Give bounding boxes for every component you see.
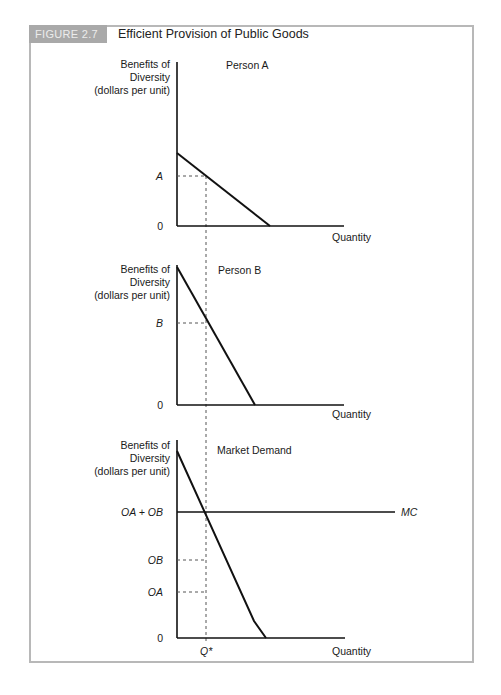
- x-axis-label: Quantity: [332, 408, 372, 420]
- ylabel-line1: Benefits of: [120, 439, 170, 451]
- ylabel-line3: (dollars per unit): [94, 84, 170, 96]
- ylabel-line2: Diversity: [130, 71, 171, 83]
- y-tick-b: B: [156, 317, 163, 329]
- y-tick-oa: OA: [148, 586, 163, 598]
- panel-person-b: Benefits of Diversity (dollars per unit)…: [94, 263, 372, 420]
- ylabel-line2: Diversity: [130, 452, 171, 464]
- origin-label: 0: [157, 399, 163, 411]
- ylabel-line1: Benefits of: [120, 263, 170, 275]
- y-tick-oa-plus-ob: OA + OB: [121, 506, 163, 518]
- origin-label: 0: [157, 632, 163, 644]
- x-axis-label: Quantity: [332, 645, 372, 657]
- chart-canvas: Benefits of Diversity (dollars per unit)…: [0, 0, 501, 695]
- panel-title: Market Demand: [217, 444, 292, 456]
- panel-title: Person B: [218, 264, 261, 276]
- panel-market-demand: Benefits of Diversity (dollars per unit)…: [94, 439, 418, 657]
- market-demand-curve: [177, 451, 266, 638]
- demand-curve-a: [177, 153, 270, 226]
- panel-person-a: Benefits of Diversity (dollars per unit)…: [94, 58, 372, 243]
- panel-title: Person A: [226, 59, 269, 71]
- x-tick-q-star: Q*: [200, 645, 213, 657]
- ylabel-line3: (dollars per unit): [94, 289, 170, 301]
- demand-curve-b: [177, 267, 255, 405]
- y-tick-a: A: [155, 170, 163, 182]
- ylabel-line2: Diversity: [130, 276, 171, 288]
- origin-label: 0: [157, 220, 163, 232]
- mc-label: MC: [401, 506, 418, 518]
- ylabel-line1: Benefits of: [120, 58, 170, 70]
- x-axis-label: Quantity: [332, 231, 372, 243]
- y-tick-ob: OB: [148, 554, 163, 566]
- ylabel-line3: (dollars per unit): [94, 465, 170, 477]
